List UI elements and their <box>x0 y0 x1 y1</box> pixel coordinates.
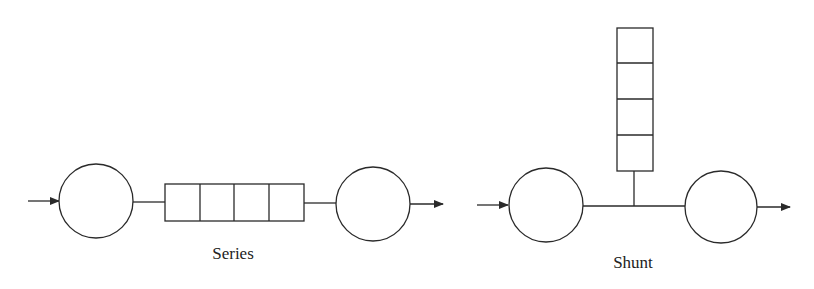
series-server-1 <box>59 164 133 238</box>
series-server-2 <box>336 167 410 241</box>
shunt-caption: Shunt <box>613 253 653 273</box>
series-queue <box>165 184 304 221</box>
series-diagram <box>28 164 443 241</box>
shunt-diagram <box>477 28 790 243</box>
shunt-server-1 <box>509 168 583 242</box>
series-caption: Series <box>212 244 254 264</box>
shunt-server-2 <box>685 171 757 243</box>
shunt-queue <box>617 28 653 171</box>
queue-configuration-figure <box>0 0 814 289</box>
